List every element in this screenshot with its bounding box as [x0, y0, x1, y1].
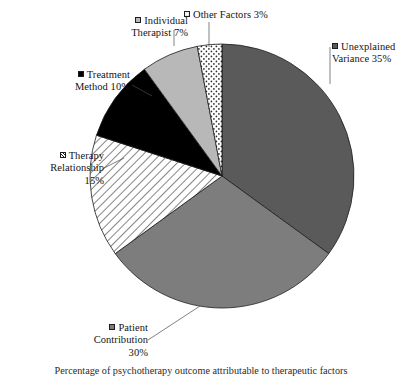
pie-label-text: Therapy	[69, 150, 104, 161]
pie-label-text: Treatment	[87, 69, 130, 80]
pie-label-other-factors: Other Factors 3%	[184, 9, 304, 21]
pie-label-text: Method 10%	[38, 81, 130, 93]
pie-label-line: Other Factors 3%	[184, 9, 304, 21]
pie-chart-figure: Individual Therapist 7% Other Factors 3%…	[0, 0, 402, 376]
pie-label-text: Other Factors 3%	[193, 9, 268, 20]
figure-caption: Percentage of psychotherapy outcome attr…	[0, 365, 402, 376]
pie-label-line: Treatment	[38, 69, 130, 81]
pie-label-unexplained-variance: Unexplained Variance 35%	[332, 41, 402, 66]
pie-label-text: Unexplained	[341, 41, 395, 52]
legend-swatch-icon	[109, 324, 115, 330]
pie-label-text: 30%	[56, 347, 148, 359]
pie-label-text: Contribution	[56, 334, 148, 346]
pie-label-patient-contribution: Patient Contribution 30%	[56, 322, 148, 359]
pie-label-text: Therapist 7%	[96, 27, 188, 39]
legend-swatch-icon	[78, 71, 84, 77]
pie-label-individual-therapist: Individual Therapist 7%	[96, 15, 188, 40]
pie-label-line: Unexplained	[332, 41, 402, 53]
pie-label-line: Patient	[56, 322, 148, 334]
legend-swatch-icon	[135, 17, 141, 23]
pie-label-text: Relationship	[12, 162, 104, 174]
pie-label-line: Individual	[96, 15, 188, 27]
legend-swatch-icon	[184, 11, 190, 17]
legend-swatch-icon	[332, 43, 338, 49]
pie-label-treatment-method: Treatment Method 10%	[38, 69, 130, 94]
pie-label-therapy-relationship: Therapy Relationship 15%	[12, 150, 104, 187]
pie-label-text: Patient	[118, 322, 148, 333]
leader-line-patient-contribution	[148, 306, 200, 340]
pie-label-text: Individual	[144, 15, 188, 26]
pie-label-text: 15%	[12, 175, 104, 187]
legend-swatch-icon	[60, 152, 66, 158]
pie-label-line: Therapy	[12, 150, 104, 162]
pie-label-text: Variance 35%	[332, 53, 402, 65]
